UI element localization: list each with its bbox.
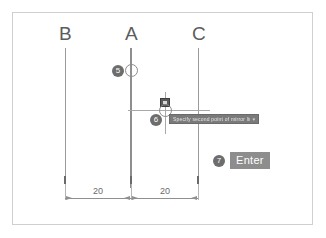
dim-arrow-ba-right <box>124 196 130 200</box>
dimension-line-ac <box>131 198 198 199</box>
dynamic-input-tooltip: Specify second point of mirror line: ▾ <box>169 114 259 124</box>
diagram-canvas: B A C 5 6 Specify second point of mirror… <box>0 0 326 238</box>
step-badge-5: 5 <box>112 65 124 77</box>
line-label-c: C <box>192 24 206 43</box>
dim-tick-b <box>64 176 66 184</box>
dynamic-input-text: Specify second point of mirror line: <box>173 116 250 122</box>
dimension-value-ac: 20 <box>158 186 172 196</box>
dimension-line-ba <box>65 198 131 199</box>
step-badge-6: 6 <box>150 114 162 126</box>
aperture-circle-step5 <box>125 64 138 77</box>
dim-tick-c <box>197 176 199 184</box>
dim-arrow-ba-left <box>66 196 72 200</box>
dim-tick-a <box>130 176 132 184</box>
dimension-value-ba: 20 <box>91 186 105 196</box>
dim-arrow-ac-right <box>191 196 197 200</box>
line-label-a: A <box>125 24 138 43</box>
chevron-down-icon: ▾ <box>252 116 255 122</box>
step-badge-7: 7 <box>213 155 225 167</box>
enter-key-label: Enter <box>230 152 270 169</box>
dim-arrow-ac-left <box>132 196 138 200</box>
line-label-b: B <box>59 24 72 43</box>
construction-line-b <box>65 48 66 188</box>
